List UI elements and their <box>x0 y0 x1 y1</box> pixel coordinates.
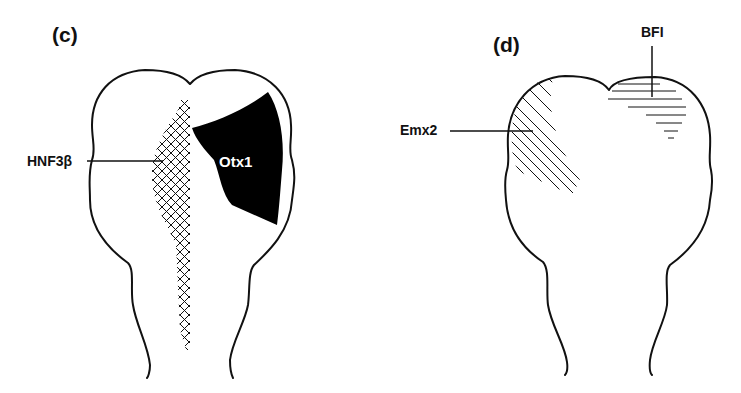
bfi-label: BFI <box>641 24 664 40</box>
otx1-label: Otx1 <box>219 153 252 170</box>
panel-c-label: (c) <box>52 23 78 46</box>
panel-d-label: (d) <box>493 33 520 56</box>
emx2-expression-region <box>500 50 600 250</box>
hnf3b-expression-region <box>140 95 195 355</box>
figure-canvas: (c) BFI Otx1 HNF3β (d) <box>0 0 741 393</box>
panel-c: (c) BFI Otx1 HNF3β <box>27 23 294 378</box>
bfi-expression-region <box>608 84 686 138</box>
hnf3b-label: HNF3β <box>27 153 73 169</box>
embryo-outline-d <box>505 76 712 375</box>
panel-d: (d) Emx2 <box>400 24 712 375</box>
emx2-label: Emx2 <box>400 122 438 138</box>
